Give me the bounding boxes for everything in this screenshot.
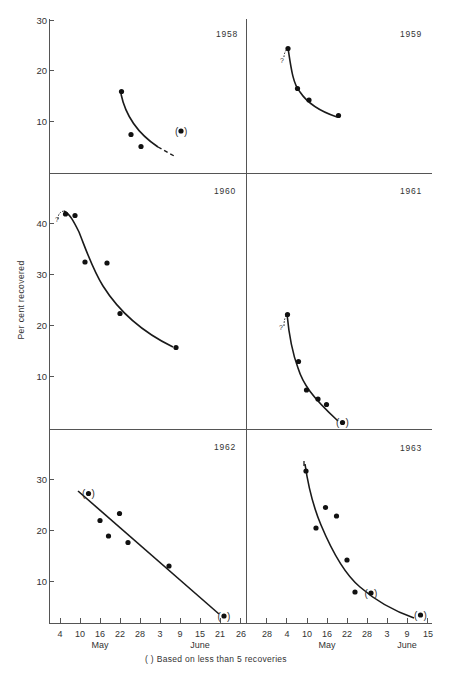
data-point <box>303 468 308 473</box>
data-point <box>285 312 290 317</box>
data-point <box>119 89 124 94</box>
question-mark: ? <box>280 57 284 64</box>
x-tick-label: 15 <box>195 629 205 639</box>
y-tick-label: 30 <box>36 15 47 26</box>
panel-1958: ( ) <box>119 89 187 157</box>
paren-close: ) <box>184 126 187 137</box>
data-point <box>166 563 171 568</box>
panel-1961: ? ( ) <box>279 312 349 428</box>
year-label-1962: 1962 <box>214 442 236 452</box>
x-tick-label: 16 <box>322 629 332 639</box>
paren-open: ( <box>175 126 179 137</box>
data-point <box>97 518 102 523</box>
data-point <box>295 86 300 91</box>
year-label-1961: 1961 <box>400 186 422 196</box>
paren-close: ) <box>227 611 230 622</box>
y-tick-label: 10 <box>36 576 47 587</box>
x-tick-label: 26 <box>236 629 246 639</box>
data-point <box>125 540 130 545</box>
x-tick-label: 28 <box>262 629 272 639</box>
data-point <box>128 132 133 137</box>
panel-1963: ( ) ( ) <box>303 461 426 621</box>
year-label-1963: 1963 <box>400 443 422 453</box>
x-tick-label: 22 <box>115 629 125 639</box>
fit-curve <box>64 211 173 347</box>
panel-1962: ( ) ( ) <box>78 488 230 622</box>
x-tick-label: 4 <box>57 629 62 639</box>
panel-frame <box>49 19 432 624</box>
x-tick-label: 15 <box>423 629 433 639</box>
month-label-june-right: June <box>397 640 417 650</box>
recovery-chart-figure: 30 20 10 40 30 20 10 30 20 10 Per cent r… <box>0 0 449 678</box>
data-point <box>106 533 111 538</box>
x-tick-label: 21 <box>215 629 225 639</box>
data-point <box>304 387 309 392</box>
paren-close: ) <box>374 588 377 599</box>
fit-curve <box>121 94 158 147</box>
footnote: ( ) Based on less than 5 recoveries <box>145 654 287 664</box>
y-tick-label: 10 <box>36 371 47 382</box>
data-point <box>173 345 178 350</box>
x-tick-label: 10 <box>75 629 85 639</box>
data-point-few <box>86 491 91 496</box>
y-tick-label: 30 <box>36 474 47 485</box>
data-point-few <box>178 128 183 133</box>
panel-1959: ? <box>280 46 341 118</box>
y-tick-label: 20 <box>36 320 47 331</box>
data-point <box>117 311 122 316</box>
data-point <box>324 402 329 407</box>
x-axis-ticks <box>61 618 428 623</box>
x-tick-label: 3 <box>384 629 389 639</box>
paren-open: ( <box>336 417 340 428</box>
y-tick-label: 30 <box>36 269 47 280</box>
data-point <box>296 359 301 364</box>
panel-1960: ? <box>55 211 179 350</box>
y-axis-title: Per cent recovered <box>16 260 26 339</box>
data-point-few <box>340 420 345 425</box>
data-point-few <box>221 613 226 618</box>
y-axis-labels: 30 20 10 40 30 20 10 30 20 10 <box>36 15 47 587</box>
x-tick-label: 3 <box>157 629 162 639</box>
data-point <box>138 144 143 149</box>
month-label-may-right: May <box>318 640 336 650</box>
fit-curve <box>305 464 414 618</box>
data-point <box>323 505 328 510</box>
fit-curve-dashed <box>158 147 176 157</box>
data-point <box>352 589 357 594</box>
fit-line <box>78 491 219 614</box>
fit-curve <box>287 314 338 421</box>
x-tick-label: 28 <box>362 629 372 639</box>
data-point <box>104 260 109 265</box>
data-point <box>315 396 320 401</box>
year-label-1960: 1960 <box>214 186 236 196</box>
month-label-june-left: June <box>190 640 210 650</box>
year-labels: 1958 1959 1960 1961 1962 1963 <box>214 29 422 453</box>
question-mark: ? <box>55 216 59 223</box>
paren-open: ( <box>414 610 418 621</box>
x-tick-label: 16 <box>95 629 105 639</box>
year-label-1958: 1958 <box>216 29 238 39</box>
data-point <box>313 525 318 530</box>
x-tick-label: 4 <box>284 629 289 639</box>
y-tick-label: 20 <box>36 525 47 536</box>
data-point <box>344 557 349 562</box>
x-tick-label: 9 <box>404 629 409 639</box>
data-point <box>334 513 339 518</box>
data-point <box>72 213 77 218</box>
paren-close: ) <box>92 488 95 499</box>
month-label-may-left: May <box>91 640 109 650</box>
data-point-few <box>368 590 373 595</box>
x-tick-label: 28 <box>135 629 145 639</box>
x-axis-labels: 4 10 16 22 28 3 9 15 21 26 28 4 10 16 22… <box>57 629 433 650</box>
data-point <box>285 46 290 51</box>
y-tick-label: 20 <box>36 65 47 76</box>
y-tick-label: 10 <box>36 116 47 127</box>
year-label-1959: 1959 <box>400 29 422 39</box>
x-tick-label: 9 <box>177 629 182 639</box>
y-tick-label: 40 <box>36 218 47 229</box>
fit-curve <box>288 48 337 117</box>
data-point <box>336 113 341 118</box>
data-point <box>82 259 87 264</box>
question-mark: ? <box>279 324 283 331</box>
data-point-few <box>418 612 423 617</box>
